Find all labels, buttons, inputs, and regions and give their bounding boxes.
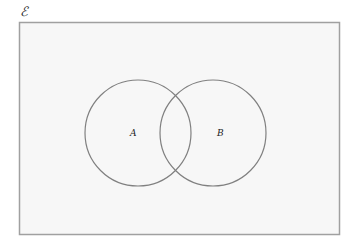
set-b-label: B [216, 128, 224, 138]
venn-diagram: A B [0, 0, 359, 244]
set-a-label: A [129, 128, 137, 138]
universe-rectangle [20, 23, 340, 235]
